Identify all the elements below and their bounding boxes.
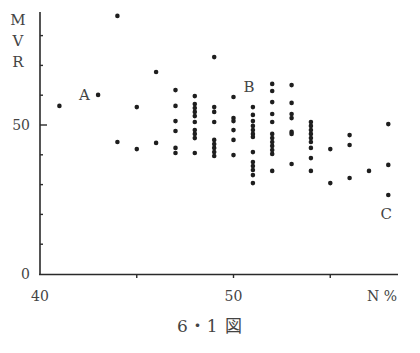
data-point [367,169,372,174]
data-point [309,169,314,174]
data-point [270,89,275,94]
data-point [231,128,236,133]
data-point [251,119,256,124]
annotation-c: C [381,205,392,223]
data-point [251,168,256,173]
point-annotations: ABC [78,78,392,223]
data-point [57,104,62,109]
data-point [251,105,256,110]
data-point [154,141,159,146]
data-point [347,176,352,181]
tick-labels: 0504050 [12,117,242,304]
y-tick-label: 50 [12,117,30,133]
data-point [289,83,294,88]
data-point [212,154,217,159]
axis-ticks [40,36,330,278]
data-points [57,14,391,198]
data-point [193,94,198,99]
data-point [289,132,294,137]
data-point [193,132,198,137]
data-point [270,152,275,157]
data-point [309,124,314,129]
axes [39,12,398,275]
data-point [173,88,178,93]
data-point [212,120,217,125]
data-point [270,100,275,105]
data-point [193,120,198,125]
data-point [251,173,256,178]
data-point [251,181,256,186]
data-point [193,151,198,156]
data-point [270,169,275,174]
data-point [328,181,333,186]
data-point [270,144,275,149]
data-point [193,136,198,141]
data-point [309,140,314,145]
data-point [270,132,275,137]
y-axis-label: R [12,53,24,71]
x-tick-label: 40 [31,288,49,304]
data-point [309,156,314,161]
x-axis-label: N % [367,288,397,304]
data-point [386,122,391,127]
scatter-chart: 0504050 MVRN % ABC [0,0,420,310]
data-point [231,119,236,124]
data-point [251,135,256,140]
data-point [328,147,333,152]
data-point [193,110,198,115]
data-point [251,160,256,165]
data-point [251,150,256,155]
data-point [115,140,120,145]
data-point [154,70,159,75]
data-point [135,105,140,110]
data-point [251,124,256,129]
x-tick-label: 50 [225,288,243,304]
data-point [309,146,314,151]
data-point [270,82,275,87]
data-point [212,110,217,115]
data-point [115,14,120,19]
data-point [289,101,294,106]
data-point [309,132,314,137]
data-point [193,114,198,119]
data-point [386,193,391,198]
data-point [173,146,178,151]
data-point [386,163,391,168]
data-point [173,151,178,156]
data-point [212,138,217,143]
data-point [347,133,352,138]
axis-labels: MVRN % [10,11,397,304]
data-point [231,138,236,143]
data-point [173,104,178,109]
data-point [289,112,294,117]
data-point [212,146,217,151]
data-point [270,120,275,125]
data-point [231,153,236,158]
data-point [231,95,236,100]
data-point [251,113,256,118]
data-point [270,112,275,117]
data-point [96,93,101,98]
y-axis-label: V [12,32,25,50]
data-point [135,147,140,152]
data-point [347,143,352,148]
data-point [289,162,294,167]
annotation-a: A [78,86,90,104]
data-point [212,105,217,110]
annotation-b: B [243,78,254,96]
y-axis-label: M [10,11,25,29]
data-point [289,116,294,121]
data-point [173,129,178,134]
figure-caption: 6・1 図 [0,312,420,337]
data-point [173,119,178,124]
data-point [212,55,217,60]
y-tick-label: 0 [21,266,30,282]
